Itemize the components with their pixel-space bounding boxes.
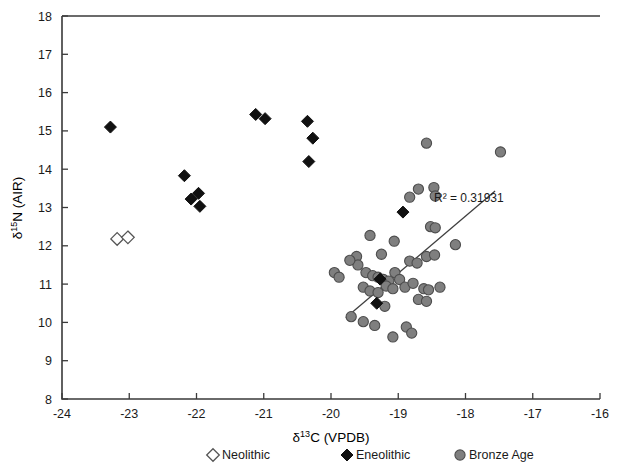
x-tick-label: -20 [322,407,340,421]
x-tick-label: -24 [53,407,71,421]
y-axis-title-rest: N (AIR) [10,177,25,222]
y-tick-label: 11 [39,278,52,292]
y-tick-label: 16 [38,86,52,100]
chart-legend: NeolithicEneolithicBronze Age [207,448,534,462]
data-point-bronze-age [407,328,417,338]
data-point-bronze-age [495,147,505,157]
data-point-bronze-age [365,230,375,240]
legend-label: Eneolithic [356,448,410,462]
data-point-bronze-age [358,317,368,327]
y-tick-label: 17 [38,48,52,62]
data-point-bronze-age [423,285,433,295]
y-axis-superscript: 15 [9,222,19,232]
data-point-bronze-age [421,138,431,148]
plot-canvas: -24-23-22-21-20-19-18-17-16 891011121314… [0,0,621,475]
y-tick-label: 10 [38,316,52,330]
data-point-bronze-age [450,240,460,250]
y-tick-label: 13 [38,201,52,215]
x-tick-label: -23 [120,407,138,421]
data-point-bronze-age [345,255,355,265]
y-tick-label: 12 [38,239,52,253]
x-tick-label: -21 [255,407,273,421]
data-point-bronze-age [389,236,399,246]
x-axis-title-rest: C (VPDB) [310,430,369,445]
r-squared-annotation: R² = 0.31931 [434,191,504,205]
plot-background [0,0,621,475]
legend-label: Neolithic [222,448,270,462]
y-tick-label: 18 [38,10,52,24]
data-point-bronze-age [430,223,440,233]
data-point-bronze-age [413,184,423,194]
data-point-bronze-age [421,296,431,306]
x-tick-label: -22 [187,407,205,421]
data-point-bronze-age [376,249,386,259]
y-tick-label: 14 [38,163,52,177]
x-tick-label: -17 [524,407,542,421]
scatter-plot-figure: -24-23-22-21-20-19-18-17-16 891011121314… [0,0,621,475]
data-point-bronze-age [334,272,344,282]
data-point-bronze-age [412,258,422,268]
y-tick-label: 9 [45,354,52,368]
data-point-bronze-age [388,332,398,342]
y-axis-delta-symbol: δ [10,232,25,240]
data-point-bronze-age [435,282,445,292]
y-tick-label: 15 [38,124,52,138]
legend-marker-circle-icon [455,450,465,460]
data-point-bronze-age [405,192,415,202]
y-tick-label: 8 [45,393,52,407]
x-axis-tick-labels: -24-23-22-21-20-19-18-17-16 [53,407,609,421]
data-point-bronze-age [408,278,418,288]
data-point-bronze-age [388,284,398,294]
data-point-bronze-age [370,320,380,330]
x-axis-superscript: 13 [300,429,310,439]
data-point-bronze-age [429,250,439,260]
data-point-bronze-age [373,287,383,297]
legend-label: Bronze Age [469,448,534,462]
x-axis-delta-symbol: δ [293,430,301,445]
data-point-bronze-age [346,312,356,322]
x-tick-label: -19 [389,407,407,421]
x-tick-label: -16 [591,407,609,421]
x-tick-label: -18 [456,407,474,421]
